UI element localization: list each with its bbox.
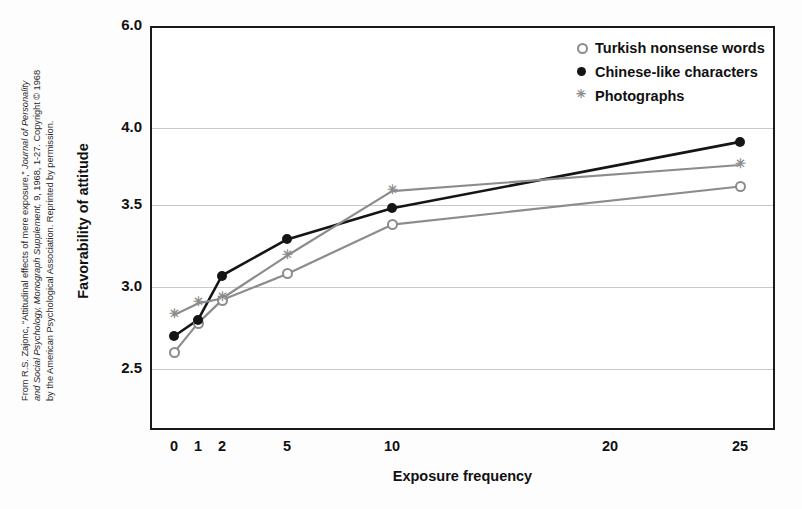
- legend-item-0: Turkish nonsense words: [572, 38, 765, 57]
- legend-label: Photographs: [595, 88, 684, 104]
- credit-line2-plain: 9, 1968, 1-27. Copyright © 1968: [32, 70, 42, 203]
- y-axis-tick-3-0: 3.0: [96, 277, 142, 294]
- y-axis-tick-6-0: 6.0: [96, 16, 142, 33]
- series-line-0: [174, 187, 740, 353]
- filled-circle-icon: [572, 63, 590, 81]
- legend-label: Turkish nonsense words: [595, 40, 765, 56]
- x-axis-tick-20: 20: [590, 438, 630, 454]
- x-axis-tick-2: 2: [202, 438, 242, 454]
- credit-line2-italic: and Social Psychology, Monograph Supplem…: [32, 203, 42, 401]
- credit-line1-plain: From R.S. Zajonc, “Attitudinal effects o…: [20, 169, 30, 401]
- legend-label: Chinese-like characters: [595, 64, 758, 80]
- figure-container: From R.S. Zajonc, “Attitudinal effects o…: [0, 0, 802, 509]
- credit-line1-italic: Journal of Personality: [20, 81, 30, 169]
- chart-legend: Turkish nonsense wordsChinese-like chara…: [572, 38, 765, 105]
- y-axis-tick-4-0: 4.0: [96, 118, 142, 135]
- attribution-credit: From R.S. Zajonc, “Attitudinal effects o…: [19, 0, 65, 401]
- y-axis-tick-2-5: 2.5: [96, 359, 142, 376]
- asterisk-icon: ✳: [572, 87, 590, 105]
- open-circle-icon: [572, 39, 590, 57]
- y-axis-title: Favorability of attitude: [75, 111, 97, 331]
- x-axis-tick-25: 25: [720, 438, 760, 454]
- x-axis-tick-5: 5: [267, 438, 307, 454]
- y-axis-tick-3-5: 3.5: [96, 195, 142, 212]
- series-line-2: [174, 165, 740, 315]
- x-axis-title: Exposure frequency: [150, 468, 775, 484]
- x-axis-tick-10: 10: [372, 438, 412, 454]
- legend-item-2: ✳Photographs: [572, 86, 765, 105]
- credit-line3-plain: by the American Psychological Associatio…: [45, 121, 55, 401]
- legend-item-1: Chinese-like characters: [572, 62, 765, 81]
